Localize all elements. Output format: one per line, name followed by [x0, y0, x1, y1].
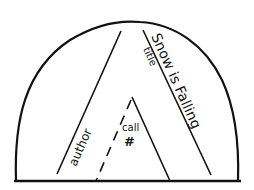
- call-label: call: [122, 122, 139, 133]
- author-line: [57, 31, 121, 174]
- dome-outline: [16, 22, 238, 181]
- call-number-symbol: #: [124, 134, 135, 149]
- spine-label-diagram: author title Snow is Falling call #: [0, 0, 254, 190]
- call-triangle-right: [132, 97, 170, 181]
- author-label: author: [66, 126, 95, 168]
